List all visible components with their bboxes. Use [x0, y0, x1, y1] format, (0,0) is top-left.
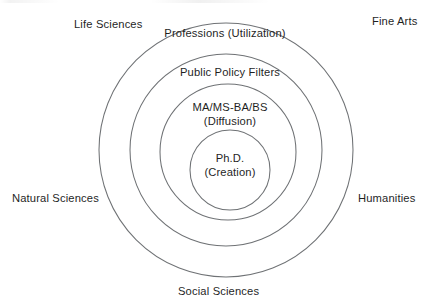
ring-label-phd: Ph.D. (Creation) [204, 152, 255, 179]
ring-outer-professions [99, 23, 353, 277]
ring-label-professions: Professions (Utilization) [164, 27, 285, 41]
ring-public-policy-filters [130, 54, 322, 246]
outer-label-natural-sciences: Natural Sciences [12, 192, 99, 206]
outer-label-life-sciences: Life Sciences [74, 18, 143, 32]
outer-label-humanities: Humanities [358, 192, 415, 206]
outer-label-social-sciences: Social Sciences [178, 285, 259, 299]
ring-label-phd-line1: Ph.D. [216, 152, 245, 164]
ring-label-masters-bachelors: MA/MS-BA/BS (Diffusion) [192, 101, 267, 128]
concentric-circles-diagram: Professions (Utilization) Public Policy … [0, 0, 445, 306]
ring-label-professions-line1: Professions (Utilization) [164, 27, 285, 39]
outer-label-fine-arts: Fine Arts [372, 15, 418, 29]
ring-label-masters-line1: MA/MS-BA/BS [192, 101, 267, 113]
ring-label-public-policy-filters: Public Policy Filters [180, 66, 280, 80]
ring-label-phd-line2: (Creation) [204, 166, 255, 180]
ring-label-masters-line2: (Diffusion) [192, 115, 267, 129]
ring-label-public-policy-line1: Public Policy Filters [180, 66, 280, 78]
scan-edge-artifact [0, 0, 445, 3]
